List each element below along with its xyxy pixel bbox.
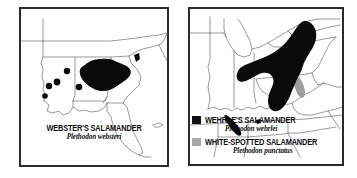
range-dot-5 bbox=[76, 84, 83, 91]
websters-salamander-map-panel: WEBSTER'S SALAMANDER Plethodon websteri bbox=[19, 7, 169, 167]
left-map-caption: WEBSTER'S SALAMANDER Plethodon websteri bbox=[33, 123, 155, 141]
species-scientific-name: Plethodon wehrlei bbox=[225, 125, 295, 134]
left-map-svg bbox=[19, 7, 169, 167]
range-dot-1 bbox=[64, 68, 70, 74]
legend-swatch-gray bbox=[192, 138, 201, 146]
species-scientific-name: Plethodon punctatus bbox=[233, 147, 317, 156]
range-dot-2 bbox=[54, 79, 61, 86]
left-species-label: WEBSTER'S SALAMANDER Plethodon websteri bbox=[46, 123, 141, 141]
wehrles-salamander-map-panel: WEHRLE'S SALAMANDER Plethodon wehrlei WH… bbox=[188, 7, 344, 166]
legend-label-punctatus: WHITE-SPOTTED SALAMANDER Plethodon punct… bbox=[205, 137, 317, 155]
legend-label-wehrlei: WEHRLE'S SALAMANDER Plethodon wehrlei bbox=[205, 115, 295, 133]
range-dot-4 bbox=[42, 93, 48, 99]
legend-entry-punctatus: WHITE-SPOTTED SALAMANDER Plethodon punct… bbox=[192, 137, 317, 155]
range-dot-3 bbox=[46, 83, 52, 89]
salamander-range-map-figure: WEBSTER'S SALAMANDER Plethodon websteri bbox=[0, 0, 357, 178]
legend-entry-wehrlei: WEHRLE'S SALAMANDER Plethodon wehrlei bbox=[192, 115, 295, 133]
legend-swatch-black bbox=[192, 116, 201, 124]
species-scientific-name: Plethodon websteri bbox=[67, 133, 122, 142]
